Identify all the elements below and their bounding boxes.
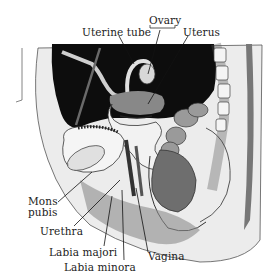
label-urethra: Urethra xyxy=(40,226,83,237)
label-uterine-tube: Uterine tube xyxy=(82,27,151,38)
ovary-shape xyxy=(139,64,155,84)
anatomy-diagram: Uterine tube Ovary Uterus Mons pubis Ure… xyxy=(0,0,269,278)
label-labia-minora: Labia minora xyxy=(64,262,136,273)
label-vagina: Vagina xyxy=(148,251,185,262)
label-mons-pubis-line2: pubis xyxy=(28,207,58,218)
label-uterus: Uterus xyxy=(183,27,220,38)
margin-mark xyxy=(16,48,22,102)
label-ovary: Ovary xyxy=(149,15,181,26)
label-labia-majori: Labia majori xyxy=(49,247,117,258)
label-mons-pubis: Mons pubis xyxy=(28,196,58,218)
